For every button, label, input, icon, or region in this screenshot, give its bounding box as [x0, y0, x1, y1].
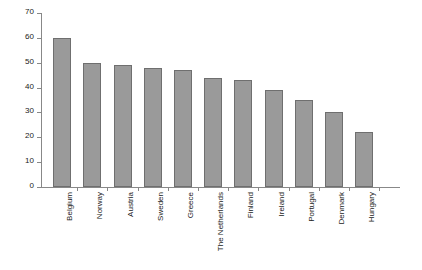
x-axis-tick — [349, 187, 350, 191]
x-axis-category-label: Ireland — [278, 192, 286, 216]
y-axis-tick-value: 30 — [4, 107, 34, 115]
bar — [83, 63, 101, 187]
x-axis-tick — [379, 187, 380, 191]
y-axis-tick-value: 50 — [4, 58, 34, 66]
x-axis-tick — [168, 187, 169, 191]
bar — [114, 65, 132, 187]
y-axis-tick-value: 70 — [4, 8, 34, 16]
x-axis-category-label: Finland — [247, 192, 255, 218]
y-axis-tick-label: 20 — [0, 132, 34, 142]
x-axis-tick — [77, 187, 78, 191]
x-axis-tick — [138, 187, 139, 191]
x-axis-tick — [198, 187, 199, 191]
y-axis-tick-value: 20 — [4, 132, 34, 140]
bar — [265, 90, 283, 187]
x-axis-category-label: Hungary — [368, 192, 376, 222]
bar — [53, 38, 71, 187]
y-axis-tick-value: 40 — [4, 83, 34, 91]
x-axis-tick — [107, 187, 108, 191]
bar — [174, 70, 192, 187]
bar — [355, 132, 373, 187]
y-axis-tick-label: 50 — [0, 58, 34, 68]
x-axis-category-label: Greece — [187, 192, 195, 218]
x-axis-line — [41, 187, 400, 188]
bar — [204, 78, 222, 187]
y-axis-tick-label: 10 — [0, 157, 34, 167]
bar-chart: 010203040506070 BelgiumNorwayAustriaSwed… — [0, 0, 422, 270]
y-axis-tick-value: 60 — [4, 33, 34, 41]
x-axis-category-label: Portugal — [308, 192, 316, 222]
x-axis-category-label: The Netherlands — [217, 192, 225, 251]
x-axis-category-label: Sweden — [157, 192, 165, 221]
bar — [144, 68, 162, 187]
y-axis-tick-label: 30 — [0, 107, 34, 117]
y-axis-tick-label: 60 — [0, 33, 34, 43]
x-axis-tick — [228, 187, 229, 191]
x-axis-category-label: Austria — [127, 192, 135, 217]
bar — [325, 112, 343, 187]
y-axis-tick-value: 0 — [4, 182, 34, 190]
x-axis-tick — [258, 187, 259, 191]
x-axis-category-label: Belgium — [66, 192, 74, 221]
bar — [295, 100, 313, 187]
x-axis-tick — [319, 187, 320, 191]
x-axis-category-label: Norway — [96, 192, 104, 219]
y-axis-tick-label: 70 — [0, 8, 34, 18]
x-axis-category-label: Denmark — [338, 192, 346, 224]
bar — [234, 80, 252, 187]
y-axis-tick — [37, 187, 42, 188]
y-axis-tick-value: 10 — [4, 157, 34, 165]
bars-container — [41, 13, 400, 187]
y-axis-tick-label: 0 — [0, 182, 34, 192]
y-axis-tick-label: 40 — [0, 83, 34, 93]
x-axis-tick — [289, 187, 290, 191]
